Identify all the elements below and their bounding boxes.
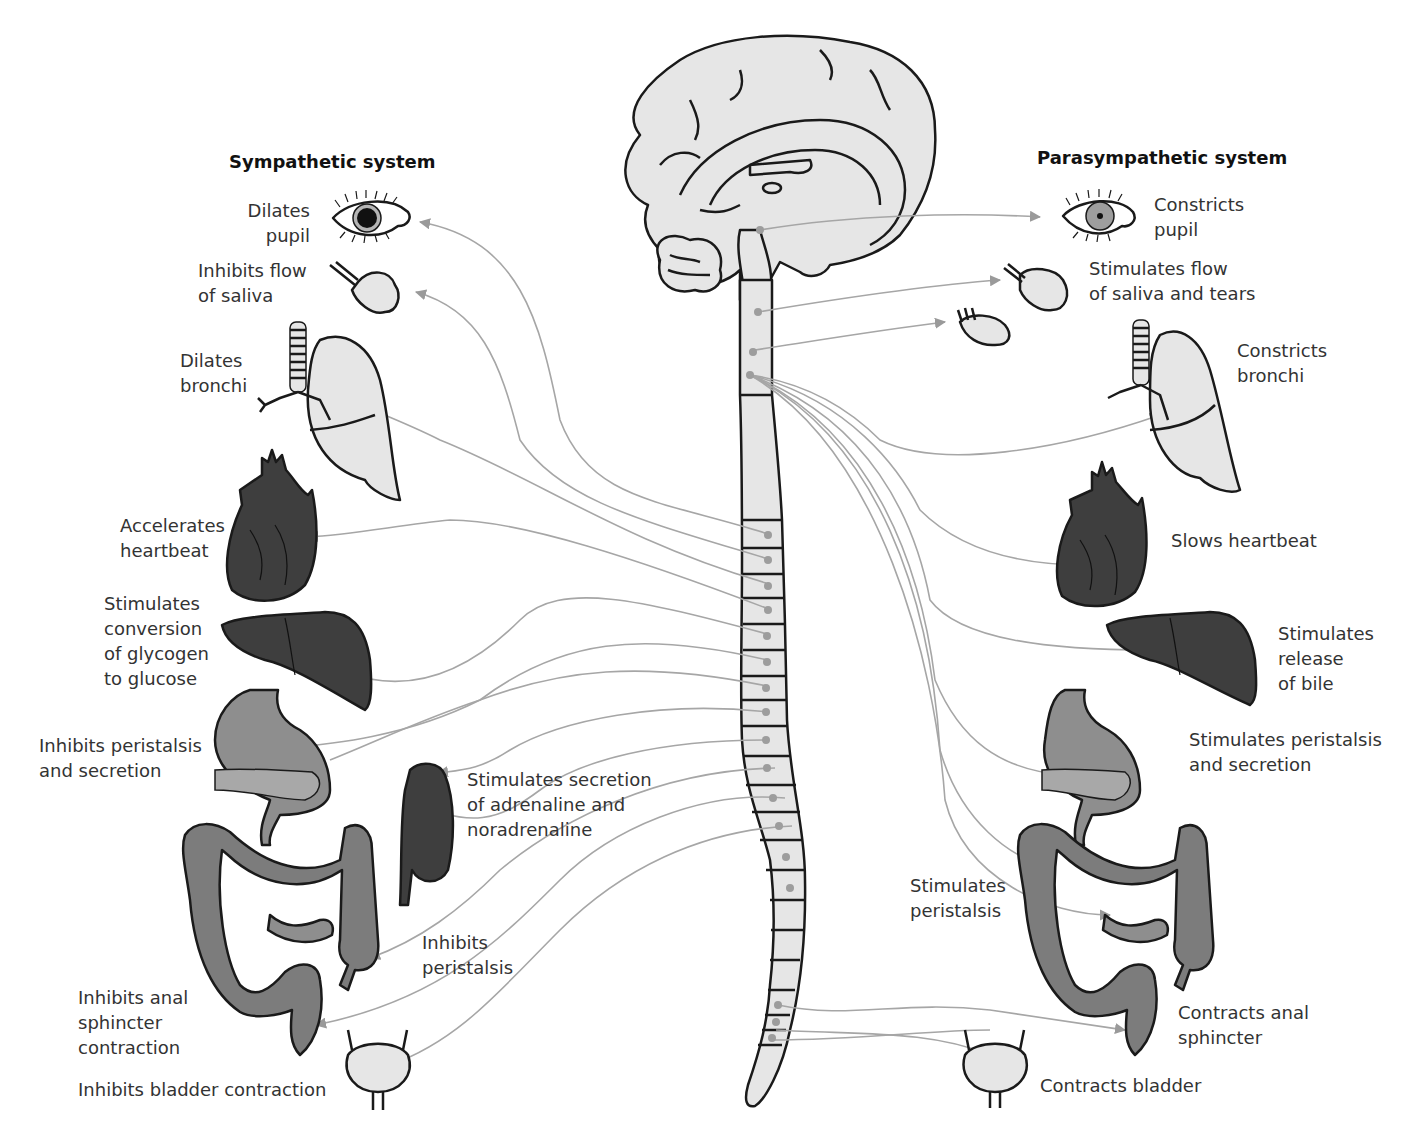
large-intestine-sympathetic-icon — [183, 824, 378, 1055]
label-parasympathetic-bronchi: Constricts bronchi — [1237, 338, 1327, 388]
salivary-gland-right-icon — [1004, 264, 1067, 310]
adrenal-kidney-icon — [400, 764, 453, 905]
label-sympathetic-bronchi: Dilates bronchi — [180, 348, 247, 398]
parasympathetic-nerve-pathways — [746, 215, 1160, 1055]
label-parasympathetic-anal-sphincter: Contracts anal sphincter — [1178, 1000, 1309, 1050]
label-sympathetic-liver: Stimulates conversion of glycogen to glu… — [104, 591, 209, 691]
label-parasympathetic-saliva: Stimulates flow of saliva and tears — [1089, 256, 1255, 306]
label-sympathetic-saliva: Inhibits flow of saliva — [198, 258, 307, 308]
label-sympathetic-stomach: Inhibits peristalsis and secretion — [39, 733, 202, 783]
label-parasympathetic-liver: Stimulates release of bile — [1278, 621, 1374, 696]
label-sympathetic-eye: Dilates pupil — [248, 198, 310, 248]
heart-sympathetic-icon — [227, 450, 316, 601]
label-parasympathetic-bladder: Contracts bladder — [1040, 1073, 1201, 1098]
brain-icon — [625, 36, 935, 300]
label-parasympathetic-intestine: Stimulates peristalsis — [910, 873, 1006, 923]
lung-right-icon — [1108, 320, 1240, 492]
label-sympathetic-adrenal: Stimulates secretion of adrenaline and n… — [467, 767, 652, 842]
bladder-parasympathetic-icon — [964, 1030, 1027, 1108]
eye-constricted-icon — [1063, 189, 1135, 242]
label-sympathetic-intestine: Inhibits peristalsis — [422, 930, 513, 980]
label-sympathetic-heart: Accelerates heartbeat — [120, 513, 225, 563]
eye-dilated-icon — [333, 190, 410, 243]
label-parasympathetic-heart: Slows heartbeat — [1171, 528, 1317, 553]
liver-parasympathetic-icon — [1107, 612, 1256, 705]
stomach-parasympathetic-icon — [1042, 690, 1140, 845]
stomach-sympathetic-icon — [215, 690, 330, 845]
heart-parasympathetic-icon — [1057, 462, 1146, 606]
sympathetic-system-title: Sympathetic system — [229, 151, 436, 172]
bladder-sympathetic-icon — [347, 1030, 410, 1110]
lacrimal-gland-icon — [958, 308, 1009, 345]
parasympathetic-system-title: Parasympathetic system — [1037, 147, 1287, 168]
label-sympathetic-bladder: Inhibits bladder contraction — [78, 1077, 326, 1102]
autonomic-nervous-system-diagram — [0, 0, 1405, 1140]
label-sympathetic-anal-sphincter: Inhibits anal sphincter contraction — [78, 985, 188, 1060]
label-parasympathetic-stomach: Stimulates peristalsis and secretion — [1189, 727, 1382, 777]
label-parasympathetic-eye: Constricts pupil — [1154, 192, 1244, 242]
salivary-gland-icon — [330, 262, 398, 313]
